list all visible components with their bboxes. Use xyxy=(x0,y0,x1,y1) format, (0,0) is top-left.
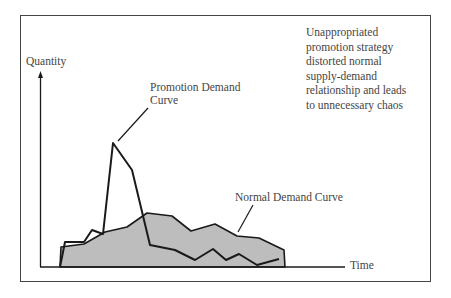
normal-pointer xyxy=(238,205,253,232)
annotation-note: Unappropriated promotion strategy distor… xyxy=(306,25,446,113)
note-line: to unnecessary chaos xyxy=(306,98,446,113)
promotion-pointer xyxy=(118,108,148,141)
note-line: promotion strategy xyxy=(306,40,446,55)
promotion-label-line1: Promotion Demand xyxy=(150,80,240,94)
normal-demand-area xyxy=(60,213,285,267)
note-line: Unappropriated xyxy=(306,25,446,40)
y-axis-label: Quantity xyxy=(26,54,66,68)
x-axis-label: Time xyxy=(350,258,374,272)
normal-demand-label: Normal Demand Curve xyxy=(235,190,343,204)
note-line: supply-demand xyxy=(306,69,446,84)
note-line: distorted normal xyxy=(306,54,446,69)
promotion-label-line2: Curve xyxy=(150,93,178,107)
note-line: relationship and leads xyxy=(306,83,446,98)
y-axis-arrow-icon xyxy=(38,71,43,78)
